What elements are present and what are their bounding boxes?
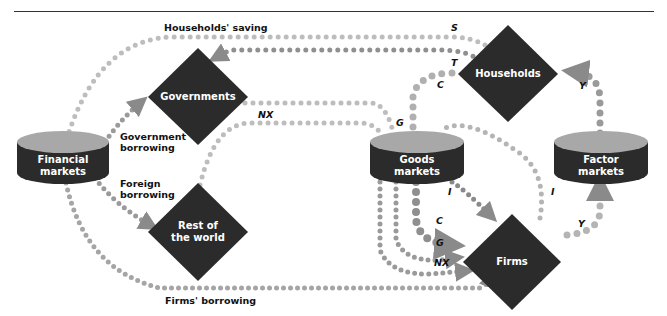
flow-label-c-top: C <box>437 79 444 90</box>
flow-label-g-bottom: G <box>436 237 444 248</box>
flow-net-exports-top <box>200 123 380 185</box>
rest-of-world-label: Rest of the world <box>171 220 225 244</box>
factor-markets-label: Factor markets <box>578 154 624 178</box>
flow-investment-left <box>452 182 490 215</box>
government-borrowing-line2: borrowing <box>120 142 186 153</box>
governments-label: Governments <box>160 91 235 103</box>
flow-label-i-left: I <box>448 186 452 197</box>
flow-label-y-bottom: Y <box>578 218 585 229</box>
rest-of-world-label-line2: the world <box>171 232 225 244</box>
flow-label-nx-top: NX <box>258 109 273 120</box>
flow-label-y-top: Y <box>579 80 586 91</box>
flow-label-i-right: I <box>551 186 555 197</box>
factor-markets-label-line2: markets <box>578 166 624 178</box>
financial-markets-label-line1: Financial <box>38 154 89 166</box>
circular-flow-diagram <box>0 0 667 316</box>
financial-markets-label-line2: markets <box>38 166 89 178</box>
flow-label-c-bottom: C <box>436 215 443 226</box>
flow-label-nx-bottom: NX <box>434 257 449 268</box>
flow-label-g-top: G <box>396 117 404 128</box>
flow-label-s: S <box>451 22 458 33</box>
foreign-borrowing-line2: borrowing <box>120 189 175 200</box>
flow-households-saving <box>68 37 485 135</box>
flow-consumption-top <box>413 73 452 130</box>
government-borrowing-label: Government borrowing <box>120 131 186 153</box>
government-borrowing-line1: Government <box>120 131 186 142</box>
households-saving-label: Households' saving <box>164 22 268 33</box>
goods-markets-label-line2: markets <box>394 166 440 178</box>
foreign-borrowing-label: Foreign borrowing <box>120 178 175 200</box>
goods-markets-label: Goods markets <box>394 154 440 178</box>
firms-borrowing-label: Firms' borrowing <box>165 295 256 306</box>
financial-markets-label: Financial markets <box>38 154 89 178</box>
foreign-borrowing-line1: Foreign <box>120 178 175 189</box>
flow-consumption-bottom <box>416 182 450 245</box>
households-label: Households <box>475 68 541 80</box>
rest-of-world-label-line1: Rest of <box>171 220 225 232</box>
goods-markets-label-line1: Goods <box>394 154 440 166</box>
flow-taxes <box>217 50 480 60</box>
flow-label-t: T <box>451 57 457 68</box>
firms-label: Firms <box>496 256 528 268</box>
factor-markets-label-line1: Factor <box>578 154 624 166</box>
